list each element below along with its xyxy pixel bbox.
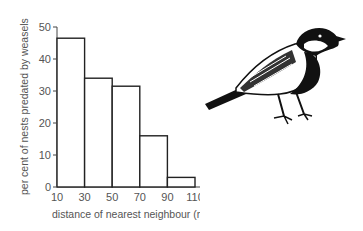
svg-text:per cent of nests predated by: per cent of nests predated by weasels <box>18 18 30 195</box>
x-ticks: 1030507090110 <box>51 191 200 203</box>
bars <box>57 38 195 187</box>
great-tit-bird-illustration <box>200 22 360 132</box>
svg-text:50: 50 <box>106 191 118 203</box>
svg-text:90: 90 <box>161 191 173 203</box>
svg-text:30: 30 <box>39 85 51 97</box>
svg-text:10: 10 <box>39 149 51 161</box>
svg-text:70: 70 <box>134 191 146 203</box>
svg-text:110: 110 <box>186 191 200 203</box>
svg-text:20: 20 <box>39 117 51 129</box>
histogram-bar <box>85 78 113 187</box>
svg-text:50: 50 <box>39 21 51 33</box>
histogram-chart: per cent of nests predated by weasels 01… <box>0 0 200 231</box>
y-axis-label: per cent of nests predated by weasels <box>18 18 30 195</box>
x-axis-label: distance of nearest neighbour (m) <box>52 208 200 220</box>
histogram-bar <box>140 136 168 187</box>
histogram-bar <box>167 177 195 187</box>
svg-text:10: 10 <box>51 191 63 203</box>
svg-text:40: 40 <box>39 53 51 65</box>
histogram-bar <box>112 86 140 187</box>
svg-text:30: 30 <box>78 191 90 203</box>
y-ticks: 01020304050 <box>39 21 57 193</box>
histogram-bar <box>57 38 85 187</box>
